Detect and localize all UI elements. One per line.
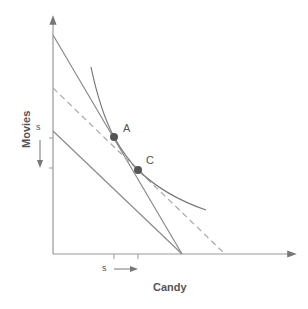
x-shift-label: s bbox=[102, 263, 107, 273]
point-c-label: C bbox=[146, 154, 154, 166]
indifference-curve bbox=[91, 67, 206, 210]
x-axis-title: Candy bbox=[153, 281, 187, 293]
point-a bbox=[110, 133, 118, 141]
point-a-label: A bbox=[123, 122, 130, 134]
y-axis-title: Movies bbox=[20, 88, 32, 148]
steep-budget-line bbox=[53, 35, 182, 254]
diagram-canvas bbox=[0, 0, 308, 309]
point-c bbox=[134, 166, 142, 174]
lower-budget-line bbox=[53, 131, 182, 254]
indifference-curve-diagram: A C s s Candy Movies bbox=[0, 0, 308, 309]
y-shift-label: s bbox=[36, 122, 41, 132]
